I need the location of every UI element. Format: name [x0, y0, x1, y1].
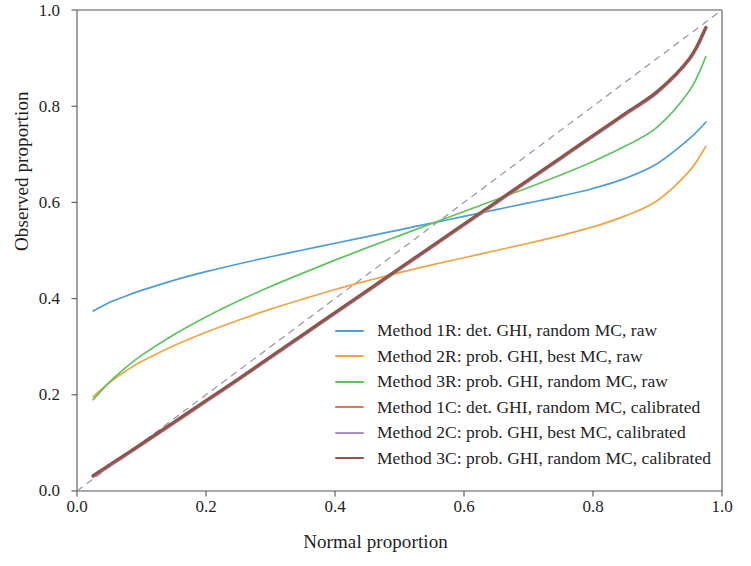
legend-swatch-method-2r [335, 355, 364, 357]
ytick-label-0.4: 0.4 [12, 289, 60, 309]
legend-item[interactable]: Method 3C: prob. GHI, random MC, calibra… [335, 446, 735, 472]
chart-legend: Method 1R: det. GHI, random MC, raw Meth… [335, 318, 735, 471]
xtick-label-0.0: 0.0 [47, 497, 107, 517]
legend-swatch-method-1c [335, 406, 364, 408]
legend-label-method-1c: Method 1C: det. GHI, random MC, calibrat… [377, 397, 700, 418]
legend-label-method-2c: Method 2C: prob. GHI, best MC, calibrate… [377, 422, 686, 443]
y-axis-label: Observed proportion [11, 91, 33, 251]
ytick-label-1.0: 1.0 [12, 1, 60, 21]
xtick-label-0.6: 0.6 [434, 497, 494, 517]
ytick-label-0.2: 0.2 [12, 385, 60, 405]
legend-label-method-2r: Method 2R: prob. GHI, best MC, raw [377, 346, 643, 367]
legend-swatch-method-1r [335, 330, 364, 332]
legend-item[interactable]: Method 2R: prob. GHI, best MC, raw [335, 344, 735, 370]
legend-label-method-3c: Method 3C: prob. GHI, random MC, calibra… [377, 448, 711, 469]
legend-item[interactable]: Method 1R: det. GHI, random MC, raw [335, 318, 735, 344]
xtick-label-1.0: 1.0 [692, 497, 751, 517]
legend-swatch-method-3c [335, 457, 364, 459]
legend-swatch-method-2c [335, 432, 364, 434]
xtick-label-0.8: 0.8 [563, 497, 623, 517]
legend-item[interactable]: Method 3R: prob. GHI, random MC, raw [335, 369, 735, 395]
xtick-label-0.4: 0.4 [305, 497, 365, 517]
legend-label-method-3r: Method 3R: prob. GHI, random MC, raw [377, 371, 668, 392]
x-axis-label: Normal proportion [0, 531, 751, 553]
legend-label-method-1r: Method 1R: det. GHI, random MC, raw [377, 320, 657, 341]
legend-item[interactable]: Method 1C: det. GHI, random MC, calibrat… [335, 395, 735, 421]
legend-swatch-method-3r [335, 381, 364, 383]
calibration-chart-figure: 1.0 0.8 0.6 0.4 0.2 0.0 0.0 0.2 0.4 0.6 … [0, 0, 751, 566]
legend-item[interactable]: Method 2C: prob. GHI, best MC, calibrate… [335, 420, 735, 446]
plot-canvas [0, 0, 751, 566]
xtick-label-0.2: 0.2 [176, 497, 236, 517]
